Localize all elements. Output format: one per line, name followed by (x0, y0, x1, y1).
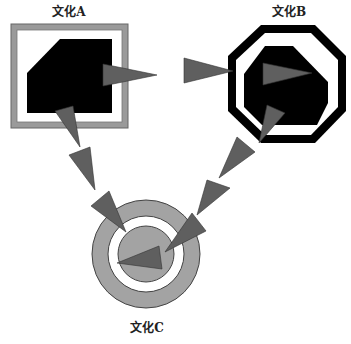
node-c-label: 文化C (130, 321, 164, 335)
diagram-canvas: 文化A 文化B 文化C (0, 0, 351, 344)
arrow-triangle-icon (69, 147, 95, 190)
arrow-triangle-icon (103, 64, 157, 86)
node-a-label: 文化A (52, 5, 85, 19)
node-b (228, 25, 346, 143)
arrow-triangle-icon (197, 180, 230, 215)
arrow-triangle-icon (184, 58, 233, 83)
arrow-triangle-icon (219, 137, 255, 178)
node-b-label: 文化B (272, 5, 306, 19)
diagram-svg (0, 0, 351, 344)
edge-b-to-c (165, 105, 285, 252)
